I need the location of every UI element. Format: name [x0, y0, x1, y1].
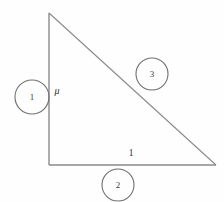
triangle-diagram-svg: μ 1 1 2 3: [0, 0, 224, 202]
base-leg-label: 1: [129, 148, 134, 158]
circled-node-1[interactable]: 1: [15, 80, 49, 114]
diagram-canvas: μ 1 1 2 3: [0, 0, 224, 202]
circled-node-2[interactable]: 2: [102, 169, 134, 201]
vertical-leg-label: μ: [53, 85, 59, 96]
circled-node-3[interactable]: 3: [136, 58, 168, 90]
node-1-label: 1: [30, 92, 35, 102]
node-2-label: 2: [116, 180, 121, 190]
triangle-hypotenuse: [49, 13, 216, 165]
node-3-label: 3: [150, 69, 155, 79]
